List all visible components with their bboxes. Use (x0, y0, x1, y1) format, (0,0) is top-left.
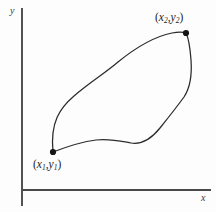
paren-close-p2: ) (179, 11, 183, 23)
subscript-x-p2: 2 (164, 16, 168, 25)
var-y-p2: y (171, 11, 176, 23)
lower-path-curve (53, 33, 191, 152)
subscript-x-p1: 1 (42, 163, 46, 172)
subscript-y-p2: 2 (176, 16, 180, 25)
figure-canvas (0, 0, 216, 212)
point-label-p2: (x2,y2) (155, 12, 183, 24)
y-axis-label: y (10, 6, 14, 16)
paren-close-p1: ) (57, 158, 61, 170)
x-axis-label: x (201, 193, 205, 203)
upper-path-curve (52, 32, 186, 152)
endpoint-dot-p2 (183, 30, 189, 36)
point-label-p1: (x1,y1) (33, 159, 61, 171)
subscript-y-p1: 1 (54, 163, 58, 172)
endpoint-dot-p1 (50, 149, 56, 155)
path-diagram-figure: y x (x2,y2) (x1,y1) (0, 0, 216, 212)
var-y-p1: y (49, 158, 54, 170)
